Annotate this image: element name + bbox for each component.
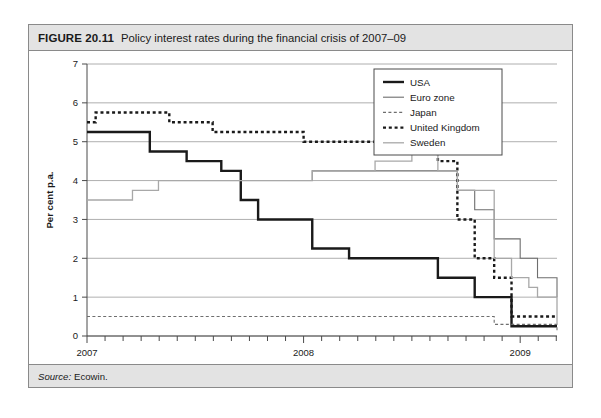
ytick-label-7: 7 [73,58,78,69]
ytick-label-6: 6 [73,97,78,108]
legend-label-japan: Japan [410,107,437,118]
source-label: Source: [38,371,71,382]
ytick-label-1: 1 [73,292,78,303]
source-value: Ecowin. [74,371,108,382]
ytick-label-2: 2 [73,253,78,264]
legend-label-united-kingdom: United Kingdom [410,122,480,133]
xtick-label-2007: 2007 [76,347,97,358]
figure-footer: Source: Ecowin. [29,364,572,387]
series-line-sweden [87,151,557,324]
chart-area: 01234567200720082009Per cent p.a.USAEuro… [29,51,572,364]
figure-container: FIGURE 20.11 Policy interest rates durin… [28,24,573,388]
xtick-label-2008: 2008 [293,347,314,358]
xtick-label-2009: 2009 [510,347,531,358]
interest-rate-line-chart: 01234567200720082009Per cent p.a.USAEuro… [29,51,572,364]
ytick-label-3: 3 [73,214,78,225]
figure-title: Policy interest rates during the financi… [121,32,406,44]
series-line-japan [87,317,557,333]
ytick-label-5: 5 [73,136,78,147]
legend-label-euro-zone: Euro zone [410,92,455,103]
legend-label-usa: USA [410,77,431,88]
ytick-label-0: 0 [73,330,78,341]
ytick-label-4: 4 [73,175,78,186]
figure-number: FIGURE 20.11 [38,32,114,44]
legend-label-sweden: Sweden [410,137,445,148]
figure-header: FIGURE 20.11 Policy interest rates durin… [29,25,572,51]
y-axis-title: Per cent p.a. [44,171,55,228]
